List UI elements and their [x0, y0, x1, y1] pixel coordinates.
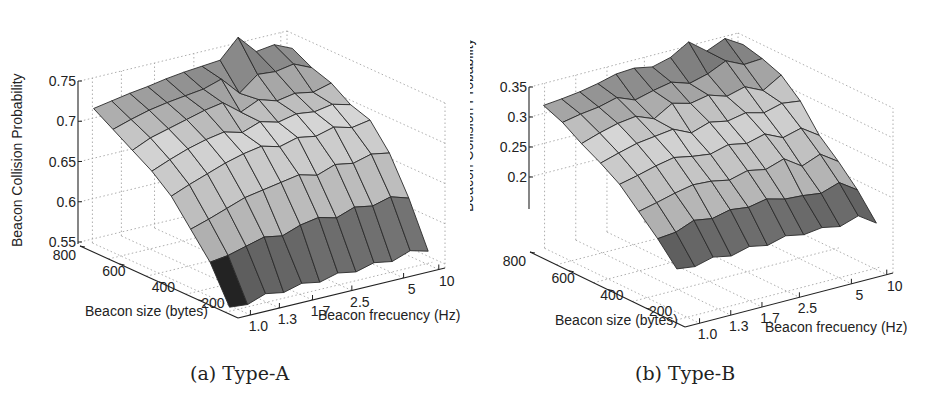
surface-plot-a: 0.550.60.650.70.758006004002001.01.31.72… [0, 0, 470, 419]
frequency-tick-label: 5 [856, 287, 864, 303]
z-axis-label: Beacon Collision Probability [9, 73, 25, 247]
size-tick-label: 600 [551, 270, 575, 286]
frequency-tick-label: 1.0 [698, 326, 718, 342]
plot-type-a: 0.550.60.650.70.758006004002001.01.31.72… [0, 0, 470, 419]
z-tick-label: 0.35 [500, 79, 527, 95]
caption-b: (b) Type-B [635, 362, 735, 384]
size-axis-label: Beacon size (bytes) [85, 303, 208, 319]
caption-a: (a) Type-A [190, 362, 289, 384]
z-axis-label: Beacon Collision Probability [470, 38, 476, 212]
size-tick-label: 800 [503, 253, 527, 269]
z-tick-label: 0.75 [49, 73, 76, 89]
frequency-tick-label: 5 [408, 281, 416, 297]
surface-plot-b: 0.20.250.30.358006004002001.01.31.72.551… [470, 0, 940, 419]
frequency-tick-label: 1.3 [278, 311, 298, 327]
plot-type-b: 0.20.250.30.358006004002001.01.31.72.551… [470, 0, 940, 419]
z-tick-label: 0.6 [57, 194, 77, 210]
z-tick-label: 0.25 [500, 139, 527, 155]
frequency-tick-label: 1.0 [249, 318, 269, 334]
frequency-tick-label: 10 [887, 278, 903, 294]
size-tick-label: 400 [600, 287, 624, 303]
size-tick-label: 400 [152, 279, 176, 295]
frequency-tick-label: 1.3 [729, 318, 749, 334]
size-tick-label: 800 [53, 247, 77, 263]
z-tick-label: 0.2 [508, 169, 528, 185]
frequency-tick-label: 10 [439, 273, 455, 289]
frequency-axis-label: Beacon frecuency (Hz) [318, 307, 460, 323]
z-tick-label: 0.7 [57, 113, 77, 129]
frequency-tick-label: 2.5 [798, 300, 818, 316]
size-axis-label: Beacon size (bytes) [555, 312, 678, 328]
z-tick-label: 0.3 [508, 109, 528, 125]
z-tick-label: 0.65 [49, 154, 76, 170]
size-tick-label: 600 [102, 263, 126, 279]
surface [544, 39, 877, 269]
frequency-axis-label: Beacon frecuency (Hz) [765, 319, 907, 335]
